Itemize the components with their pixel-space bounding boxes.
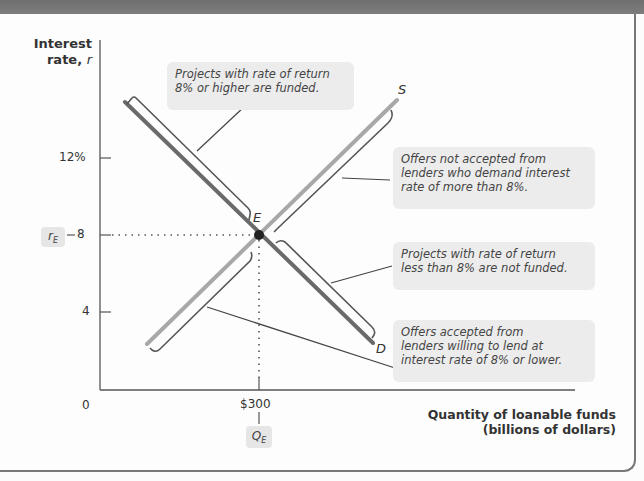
y-axis-title: Interest rate, r [30, 36, 92, 68]
y-tick-label-4: 4 [82, 304, 90, 318]
equilibrium-label: E [253, 210, 261, 225]
bracket-supply-lower [150, 252, 252, 351]
x-axis-title: Quantity of loanable funds (billions of … [428, 407, 616, 437]
supply-label: S [398, 82, 406, 97]
leader-right2 [331, 266, 392, 283]
callout-line: lenders willing to lend at [401, 339, 587, 353]
bracket-demand-upper [127, 97, 250, 220]
callout-line: Offers not accepted from [401, 152, 587, 166]
qe-sub: E [261, 436, 266, 445]
re-tag: rE [41, 227, 65, 247]
callout-line: lenders who demand interest [401, 166, 587, 180]
x-axis-title-line1: Quantity of loanable funds [428, 407, 616, 422]
callout-line: 8% or higher are funded. [175, 81, 346, 95]
demand-label: D [376, 341, 386, 356]
y-axis-title-line1: Interest [30, 36, 92, 52]
leader-right1 [342, 178, 390, 180]
origin-label: 0 [82, 398, 90, 412]
callout-line: rate of more than 8%. [401, 180, 587, 194]
supply-curve [147, 100, 397, 344]
bracket-demand-lower [276, 241, 375, 338]
bracket-supply-upper [274, 110, 392, 232]
demand-curve [125, 102, 373, 343]
callout-offers-not-accepted: Offers not accepted from lenders who dem… [393, 147, 595, 209]
y-axis-variable: r [87, 52, 92, 67]
callout-funded-projects: Projects with rate of return 8% or highe… [167, 62, 354, 110]
callout-line: Projects with rate of return [401, 247, 587, 261]
y-axis-title-prefix: rate, [47, 52, 87, 67]
re-sub: E [53, 236, 58, 245]
qe-tag: QE [246, 426, 272, 448]
callout-line: interest rate of 8% or lower. [401, 353, 587, 367]
callout-line: less than 8% are not funded. [401, 261, 587, 275]
callout-projects-not-funded: Projects with rate of return less than 8… [393, 242, 595, 290]
equilibrium-point [254, 230, 264, 240]
y-axis-title-line2: rate, r [30, 52, 92, 68]
callout-line: Offers accepted from [401, 325, 587, 339]
y-tick-label-8: 8 [77, 227, 85, 241]
x-tick-label-300: $300 [240, 397, 271, 411]
callout-line: Projects with rate of return [175, 67, 346, 81]
qe-base: Q [252, 429, 261, 443]
leader-top [197, 106, 245, 151]
x-axis-title-line2: (billions of dollars) [428, 422, 616, 437]
y-tick-label-12: 12% [59, 150, 86, 164]
callout-offers-accepted: Offers accepted from lenders willing to … [393, 320, 595, 382]
